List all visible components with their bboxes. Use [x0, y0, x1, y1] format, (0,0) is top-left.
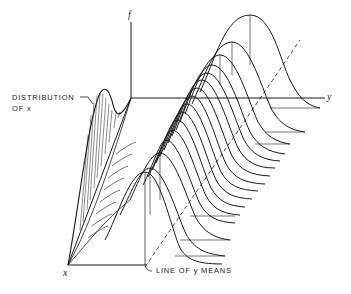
distribution-of-x-label-line1: DISTRIBUTION	[12, 93, 75, 102]
distribution-of-x-leader	[80, 97, 93, 104]
line-of-y-means-leader	[145, 266, 152, 271]
line-of-y-means	[145, 40, 300, 267]
line-of-y-means-label: LINE OF y MEANS	[156, 266, 232, 275]
x-axis	[68, 98, 131, 265]
conditional-distributions	[68, 15, 320, 265]
diagram-canvas	[0, 0, 351, 294]
y-axis-label: y	[327, 91, 331, 102]
f-axis-label: f	[128, 9, 131, 20]
distribution-of-x-label-line2: OF x	[12, 104, 31, 113]
x-axis-label: x	[63, 267, 67, 278]
